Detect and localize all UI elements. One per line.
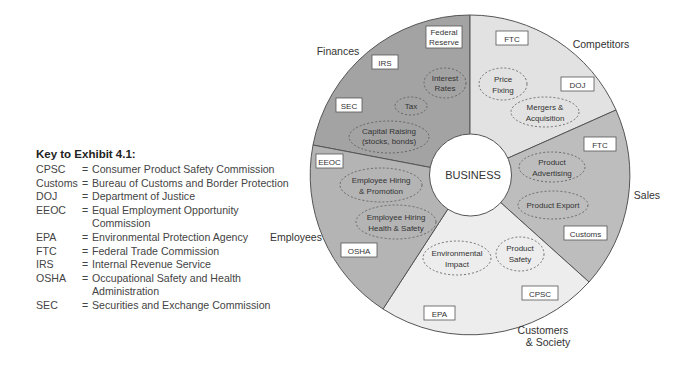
agency-sec: SEC	[341, 102, 358, 111]
issue-hiring-promotion-1: Employee Hiring	[352, 176, 411, 185]
issue-interest-1: Interest	[432, 74, 459, 83]
agency-customs: Customs	[570, 230, 602, 239]
issue-capital-1: Capital Raising	[362, 127, 416, 136]
issue-hiring-promotion-2: & Promotion	[359, 187, 403, 196]
label-customers-2: & Society	[526, 336, 571, 348]
issue-price-2: Fixing	[492, 86, 513, 95]
issue-environmental-2: Impact	[445, 260, 470, 269]
label-sales: Sales	[634, 189, 660, 201]
issue-interest-2: Rates	[435, 84, 456, 93]
center-label: BUSINESS	[445, 169, 501, 181]
issue-health-safety-1: Employee Hiring	[367, 213, 426, 222]
issue-mergers-1: Mergers &	[527, 103, 565, 112]
agency-ftc-competitors: FTC	[504, 35, 520, 44]
agency-doj: DOJ	[570, 81, 586, 90]
agency-federal-1: Federal	[430, 28, 457, 37]
issue-advertising-1: Product	[538, 158, 566, 167]
agency-cpsc: CPSC	[529, 290, 551, 299]
issue-capital-2: (stocks, bonds)	[362, 137, 417, 146]
agency-irs: IRS	[378, 59, 391, 68]
issue-health-safety-2: Health & Safety	[368, 224, 424, 233]
issue-tax-label: Tax	[405, 102, 417, 111]
issue-export: Product Export	[527, 201, 581, 210]
agency-epa: EPA	[432, 310, 448, 319]
label-finances: Finances	[317, 45, 360, 57]
issue-advertising-2: Advertising	[532, 169, 572, 178]
issue-safety-2: Safety	[509, 255, 532, 264]
issue-mergers-2: Acquisition	[526, 114, 565, 123]
label-customers-1: Customers	[518, 324, 569, 336]
agency-eeoc: EEOC	[318, 158, 341, 167]
issue-price-1: Price	[494, 75, 513, 84]
agency-ftc-sales: FTC	[592, 141, 608, 150]
issue-environmental-1: Environmental	[431, 249, 482, 258]
label-competitors: Competitors	[573, 38, 630, 50]
agency-osha: OSHA	[348, 247, 371, 256]
label-employees: Employees	[270, 231, 322, 243]
agency-federal-2: Reserve	[429, 38, 459, 47]
issue-safety-1: Product	[506, 244, 534, 253]
business-environment-wheel: BUSINESS Finances Competitors Sales Cust…	[0, 0, 695, 370]
